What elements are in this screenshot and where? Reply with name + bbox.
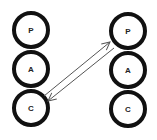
right-parent-state: P (111, 14, 145, 48)
right-person: P A C (111, 14, 145, 126)
left-parent-label: P (28, 26, 34, 35)
left-child-state: C (14, 91, 48, 125)
left-person: P A C (14, 13, 48, 125)
left-adult-label: A (28, 65, 34, 74)
left-child-label: C (28, 104, 34, 113)
right-parent-label: P (125, 27, 131, 36)
transaction-arrow-up (44, 42, 110, 96)
left-adult-state: A (14, 52, 48, 86)
right-child-state: C (111, 92, 145, 126)
left-parent-state: P (14, 13, 48, 47)
ta-diagram: P A C P A C (0, 0, 157, 140)
right-child-label: C (125, 105, 131, 114)
transaction-arrow-down (48, 48, 114, 101)
right-adult-state: A (111, 53, 145, 87)
right-adult-label: A (125, 66, 131, 75)
